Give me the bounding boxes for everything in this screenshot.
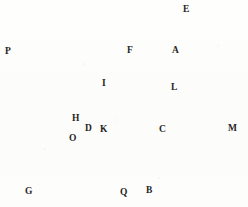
point-label-d: D bbox=[85, 124, 92, 134]
point-label-l: L bbox=[171, 83, 178, 93]
point-label-m: M bbox=[228, 124, 237, 134]
point-label-b: B bbox=[146, 186, 153, 196]
geometric-figure: EPFAILHDKCMOGQB bbox=[0, 0, 248, 207]
point-label-f: F bbox=[127, 46, 133, 56]
point-label-a: A bbox=[172, 46, 179, 56]
point-label-h: H bbox=[72, 114, 80, 124]
line-P-to-B bbox=[6, 65, 150, 193]
point-label-p: P bbox=[5, 47, 11, 57]
point-label-o: O bbox=[69, 134, 77, 144]
point-label-k: K bbox=[100, 125, 108, 135]
point-label-e: E bbox=[183, 5, 190, 15]
figure-canvas bbox=[0, 0, 248, 207]
dotted-line-group bbox=[104, 89, 168, 127]
line-G-Q-B-right bbox=[22, 182, 192, 185]
line-E-to-B bbox=[148, 15, 178, 193]
point-label-q: Q bbox=[120, 188, 128, 198]
solid-line-group bbox=[6, 15, 234, 193]
point-label-g: G bbox=[25, 187, 33, 197]
point-label-c: C bbox=[159, 125, 166, 135]
point-label-i: I bbox=[102, 79, 106, 89]
